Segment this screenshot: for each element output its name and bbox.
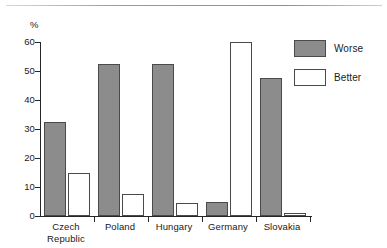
y-axis-tick-label: 50 (5, 66, 35, 76)
bar-better (284, 213, 306, 216)
x-axis-category-label: Czech Republic (39, 221, 93, 244)
y-axis-tick (35, 42, 40, 43)
bar-worse (260, 78, 282, 216)
y-axis-tick (35, 187, 40, 188)
legend-swatch-better-icon (294, 69, 326, 86)
bar-worse (152, 64, 174, 216)
y-axis-tick-label: 10 (5, 182, 35, 192)
y-axis-tick (35, 158, 40, 159)
bar-better (68, 173, 90, 217)
bar-better (176, 203, 198, 216)
legend-label-better: Better (334, 73, 361, 83)
x-axis-category-label: Poland (93, 221, 147, 233)
y-axis-tick (35, 71, 40, 72)
y-axis-line (40, 42, 41, 217)
x-axis-category-label: Hungary (147, 221, 201, 233)
y-axis-tick (35, 129, 40, 130)
bar-chart: % 0102030405060 Czech RepublicPolandHung… (0, 0, 387, 248)
y-axis-tick-label: 60 (5, 37, 35, 47)
x-axis-tick (310, 217, 311, 222)
x-axis-category-label: Slovakia (255, 221, 309, 233)
legend-item-better: Better (294, 69, 363, 86)
x-axis-category-label: Germany (201, 221, 255, 233)
bar-better (122, 194, 144, 216)
bar-better (230, 42, 252, 216)
y-axis-tick (35, 100, 40, 101)
y-axis-tick-label: 40 (5, 95, 35, 105)
y-axis-tick (35, 216, 40, 217)
bar-worse (206, 202, 228, 217)
x-axis-line (40, 216, 312, 217)
bar-worse (44, 122, 66, 216)
legend-label-worse: Worse (334, 44, 363, 54)
legend-item-worse: Worse (294, 40, 363, 57)
y-axis-tick-label: 20 (5, 153, 35, 163)
y-axis-unit-label: % (30, 20, 38, 30)
legend-swatch-worse-icon (294, 40, 326, 57)
y-axis-tick-label: 30 (5, 124, 35, 134)
chart-legend: Worse Better (294, 40, 363, 98)
y-axis-tick-label: 0 (5, 211, 35, 221)
bar-worse (98, 64, 120, 216)
